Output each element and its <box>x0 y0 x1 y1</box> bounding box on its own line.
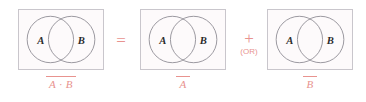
venn-label-b-2: B <box>199 35 207 46</box>
venn-label-a-3: A <box>285 35 293 46</box>
venn-panel-2: A B <box>140 9 226 70</box>
venn-circle-a-2 <box>149 16 195 62</box>
venn-circle-b-2 <box>170 16 216 62</box>
caption-panel-1: A · B <box>18 76 104 90</box>
venn-diagram-1: A B <box>19 10 103 69</box>
venn-panel-3: A B <box>267 9 353 70</box>
plus-operator-note: (OR) <box>234 48 264 56</box>
venn-circle-b-3 <box>297 16 343 62</box>
venn-circle-a-1 <box>27 16 73 62</box>
plus-operator: + <box>234 30 264 47</box>
caption-text-3: B <box>303 76 316 90</box>
caption-panel-2: A <box>140 76 226 90</box>
venn-label-b-3: B <box>326 35 334 46</box>
venn-label-b-1: B <box>77 35 85 46</box>
caption-text-1: A · B <box>46 76 76 90</box>
venn-panel-1: A B <box>18 9 104 70</box>
venn-diagram-2: A B <box>141 10 225 69</box>
venn-identity-figure: A B A · B = A B A + (OR) A B B <box>0 0 366 102</box>
venn-label-a-2: A <box>158 35 166 46</box>
venn-label-a-1: A <box>36 35 44 46</box>
caption-text-2: A <box>176 76 189 90</box>
caption-panel-3: B <box>267 76 353 90</box>
venn-diagram-3: A B <box>268 10 352 69</box>
equals-operator: = <box>108 32 134 49</box>
venn-circle-b-1 <box>48 16 94 62</box>
venn-circle-a-3 <box>276 16 322 62</box>
